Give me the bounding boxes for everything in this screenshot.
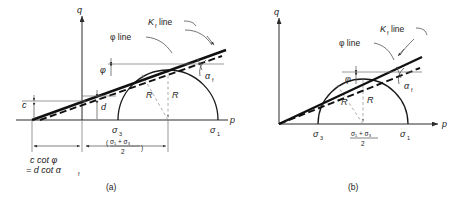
panel-b-sigma1-sub: 1 [407,135,410,141]
panel-b-sigma3-sub: 3 [320,135,323,141]
panel-a-q-axis-label: q [77,5,82,15]
panel-b-q-axis-label: q [274,7,279,17]
panel-a-radius-right-label: R [172,90,179,100]
panel-b-kf-leader-arrow [398,49,404,56]
panel-b-kf-line-word: line [391,24,405,34]
panel-a-dim-line2: = d cot α [26,165,62,175]
panel-a: φ α f K f line φ line R R c d σ 3 σ 1 [16,5,235,177]
panel-b-radius-left-label: R [341,97,348,107]
panel-a-kf-line-word: line [159,17,173,27]
panel-b-p-axis-label: p [441,119,447,129]
panel-b-alpha-angle-label: α [404,81,410,91]
panel-a-caption: (a) [106,182,116,192]
panel-a-alpha-angle-sub: f [212,77,214,83]
panel-a-d-label: d [101,102,107,112]
panel-b-kf-line [279,57,422,124]
figure-canvas: φ α f K f line φ line R R c d σ 3 σ 1 [0,0,468,209]
panel-a-kf-leader-arrow [207,36,214,45]
panel-b-mean-denominator: 2 [361,140,365,147]
panel-a-sigma3-sub: 3 [119,131,122,137]
panel-a-mean-close-paren: ) [141,144,143,152]
panel-b: φ α f K f line φ line R R σ 3 σ 1 σ₁ + σ… [274,7,447,147]
panel-b-kf-line-sub: f [387,30,389,36]
panel-b-sigma3-label: σ [313,129,319,139]
panel-a-phi-leader [146,37,172,53]
panel-a-kf-line-label: K [148,17,155,27]
panel-b-phi-leader [374,43,394,60]
panel-a-phi-angle-label: φ [100,65,106,75]
panel-b-kf-line-label: K [380,24,387,34]
panel-b-sigma1-label: σ [400,129,406,139]
panel-b-kf-leader [400,39,414,55]
panel-b-radius-right-label: R [367,95,374,105]
panel-a-kf-label-tail [184,21,196,26]
panel-b-kf-label-tail [416,28,427,35]
panel-b-caption: (b) [348,182,358,192]
mohr-coulomb-figure: φ α f K f line φ line R R c d σ 3 σ 1 [0,0,468,209]
panel-a-sigma1-label: σ [210,125,216,135]
panel-a-dim-line1: c cot φ [30,155,58,165]
panel-a-c-label: c [22,100,27,110]
panel-a-sigma3-label: σ [112,125,118,135]
panel-b-phi-line-label: φ line [339,38,360,48]
panel-a-phi-line [40,56,222,120]
panel-a-kf-line-sub: f [155,23,157,29]
panel-a-p-axis-label: p [229,115,235,125]
panel-a-radius-left-label: R [146,90,153,100]
panel-b-alpha-angle-sub: f [411,87,413,93]
panel-b-phi-angle-label: φ [345,74,351,84]
panel-a-kf-line [32,50,226,120]
panel-a-mean-numerator: σ₁ + σ₃ [110,138,131,145]
panel-a-sigma1-sub: 1 [217,131,220,137]
panel-a-mean-denominator: 2 [121,148,125,155]
panel-a-dim-line2-sub: f [78,171,80,177]
panel-b-mean-numerator: σ₁ + σ₃ [351,130,372,137]
panel-a-phi-line-label: φ line [110,32,131,42]
panel-a-alpha-angle-label: α [205,71,211,81]
